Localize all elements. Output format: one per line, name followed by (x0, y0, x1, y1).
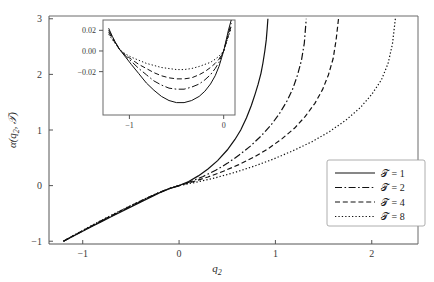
inset-x-tick-label: −1 (125, 121, 134, 130)
legend-label: 𝒯 = 1 (381, 168, 405, 179)
inset-y-tick-label: 0.02 (82, 26, 96, 35)
legend-label: 𝒯 = 4 (381, 197, 405, 208)
y-tick-label: 1 (37, 125, 42, 136)
legend-box (327, 160, 425, 226)
axis-titles: q2 α(q2, 𝒯) (6, 112, 222, 277)
inset-x-tick-label: 0 (222, 121, 226, 130)
y-tick-label: −1 (31, 236, 42, 247)
x-tick-label: 2 (369, 248, 374, 259)
legend[interactable]: 𝒯 = 1𝒯 = 2𝒯 = 4𝒯 = 8 (327, 160, 425, 226)
y-tick-label: 3 (37, 13, 42, 24)
figure-root: −10123−1012 0.020.00−0.02−10 𝒯 = 1𝒯 = 2𝒯… (0, 0, 434, 282)
y-tick-label: 0 (37, 180, 42, 191)
y-tick-label: 2 (37, 69, 42, 80)
inset-plot-area: 0.020.00−0.02−10 (77, 20, 235, 130)
y-axis-title: α(q2, 𝒯) (6, 112, 21, 148)
inset-y-tick-label: 0.00 (82, 47, 96, 56)
x-axis-title: q2 (212, 262, 222, 277)
legend-label: 𝒯 = 8 (381, 211, 405, 222)
x-tick-label: 0 (177, 248, 182, 259)
x-tick-label: 1 (273, 248, 278, 259)
x-tick-label: −1 (77, 248, 88, 259)
legend-label: 𝒯 = 2 (381, 182, 405, 193)
inset-y-tick-label: −0.02 (77, 68, 96, 77)
